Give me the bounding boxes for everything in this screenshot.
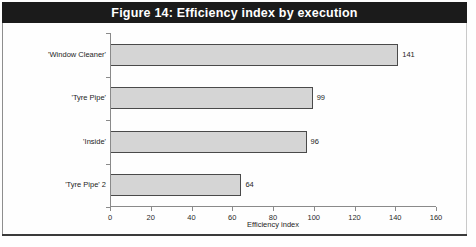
x-axis-tick bbox=[395, 207, 396, 211]
bar-value-label: 141 bbox=[402, 50, 415, 59]
bar-value-label: 64 bbox=[245, 180, 253, 189]
figure-container: Figure 14: Efficiency index by execution… bbox=[0, 0, 476, 247]
x-axis-tick bbox=[273, 207, 274, 211]
figure-border-bottom bbox=[2, 234, 467, 236]
y-axis-category-label: 'Tyre Pipe' bbox=[71, 93, 106, 102]
y-axis-tick bbox=[106, 207, 110, 208]
figure-title: Figure 14: Efficiency index by execution bbox=[111, 6, 357, 20]
bar-value-label: 99 bbox=[317, 93, 325, 102]
x-axis-title: Efficiency index bbox=[110, 220, 436, 229]
bar bbox=[111, 174, 241, 196]
bar bbox=[111, 87, 313, 109]
x-axis-tick bbox=[355, 207, 356, 211]
y-axis-tick bbox=[106, 164, 110, 165]
y-axis-tick bbox=[106, 33, 110, 34]
y-axis-category-label: 'Tyre Pipe' 2 bbox=[65, 180, 106, 189]
x-axis-tick bbox=[192, 207, 193, 211]
y-axis-tick bbox=[106, 77, 110, 78]
bar bbox=[111, 131, 307, 153]
plot-area: 020406080100120140160141999664 bbox=[110, 33, 436, 207]
x-axis-tick bbox=[436, 207, 437, 211]
x-axis-tick bbox=[151, 207, 152, 211]
x-axis-tick bbox=[232, 207, 233, 211]
figure-title-bar: Figure 14: Efficiency index by execution bbox=[2, 2, 467, 23]
y-axis-category-label: 'Inside' bbox=[83, 137, 106, 146]
bar bbox=[111, 44, 398, 66]
x-axis-tick bbox=[314, 207, 315, 211]
bar-value-label: 96 bbox=[311, 137, 319, 146]
y-axis-category-label: 'Window Cleaner' bbox=[48, 50, 106, 59]
y-axis-tick bbox=[106, 120, 110, 121]
x-axis-tick bbox=[110, 207, 111, 211]
